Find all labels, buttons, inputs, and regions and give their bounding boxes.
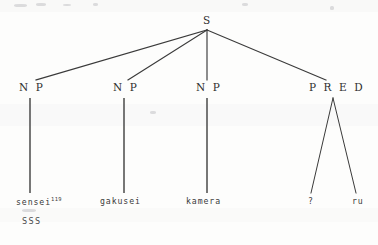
leaf-sensei: sensei119 (16, 197, 62, 206)
edge-pred-to-question (311, 98, 333, 193)
tree-branches (0, 0, 378, 245)
leaf-question-mark: ? (308, 197, 314, 205)
leaf-ru: ru (352, 197, 364, 205)
node-s: S (203, 15, 212, 26)
edge-s-to-np1 (36, 30, 207, 80)
edge-s-to-np2 (128, 30, 207, 80)
edge-s-to-pred (207, 30, 326, 80)
annotation-sss: SSS (22, 217, 41, 226)
node-pred: P R E D (309, 82, 365, 93)
tree-diagram-canvas: S N P N P N P P R E D sensei119 gakusei … (0, 0, 378, 245)
leaf-sensei-text: sensei (16, 197, 51, 207)
leaf-sensei-superscript: 119 (51, 196, 62, 202)
node-np-3: N P (196, 82, 222, 93)
leaf-kamera: kamera (186, 197, 221, 205)
leaf-gakusei: gakusei (100, 197, 141, 205)
node-np-1: N P (19, 82, 45, 93)
node-np-2: N P (113, 82, 139, 93)
edge-pred-to-ru (333, 98, 356, 193)
